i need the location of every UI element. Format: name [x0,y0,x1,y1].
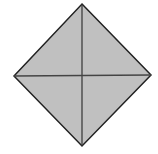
diamond-diagram [0,0,158,154]
horizontal-diagonal [14,75,151,76]
